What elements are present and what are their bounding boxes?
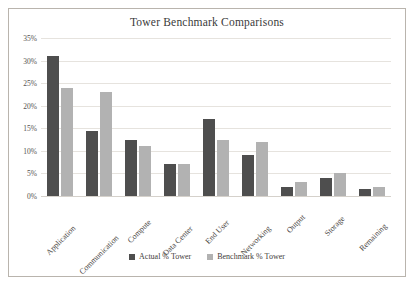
bar-group bbox=[352, 38, 391, 196]
bar-actual[interactable] bbox=[47, 56, 59, 196]
bar-actual[interactable] bbox=[242, 155, 254, 196]
bar-actual[interactable] bbox=[320, 178, 332, 196]
y-axis-tick-label: 15% bbox=[23, 124, 37, 133]
x-axis-tick-label: Output bbox=[285, 213, 307, 235]
bar-actual[interactable] bbox=[164, 164, 176, 196]
y-axis-tick-label: 25% bbox=[23, 79, 37, 88]
bar-group bbox=[274, 38, 313, 196]
bar-benchmark[interactable] bbox=[256, 142, 268, 196]
x-axis-tick-label: Compute bbox=[126, 218, 153, 245]
x-axis-tick-label: Storage bbox=[323, 214, 347, 238]
bar-benchmark[interactable] bbox=[178, 164, 190, 196]
y-axis-tick-label: 0% bbox=[27, 192, 37, 201]
y-axis-tick-label: 5% bbox=[27, 169, 37, 178]
plot-area: 35%30%25%20%15%10%5%0% bbox=[41, 38, 391, 196]
bar-benchmark[interactable] bbox=[217, 140, 229, 196]
legend-label: Benchmark % Tower bbox=[217, 252, 285, 261]
x-axis-category-labels: ApplicationCommunicationComputeData Cent… bbox=[41, 197, 391, 259]
bar-benchmark[interactable] bbox=[373, 187, 385, 196]
x-axis-tick-label: Remaining bbox=[357, 222, 388, 253]
bar-group bbox=[313, 38, 352, 196]
bar-actual[interactable] bbox=[203, 119, 215, 196]
bar-actual[interactable] bbox=[359, 189, 371, 196]
bar-benchmark[interactable] bbox=[139, 146, 151, 196]
legend-swatch-icon bbox=[207, 254, 213, 260]
chart-legend: Actual % TowerBenchmark % Tower bbox=[9, 252, 405, 261]
bars-layer bbox=[41, 38, 391, 196]
chart-frame: Tower Benchmark Comparisons 35%30%25%20%… bbox=[8, 8, 406, 277]
bar-group bbox=[158, 38, 197, 196]
bar-group bbox=[41, 38, 80, 196]
y-axis-tick-label: 10% bbox=[23, 146, 37, 155]
bar-group bbox=[80, 38, 119, 196]
bar-group bbox=[119, 38, 158, 196]
y-axis-tick-label: 30% bbox=[23, 56, 37, 65]
legend-entry[interactable]: Actual % Tower bbox=[129, 252, 191, 261]
legend-label: Actual % Tower bbox=[139, 252, 191, 261]
bar-group bbox=[197, 38, 236, 196]
legend-swatch-icon bbox=[129, 254, 135, 260]
bar-actual[interactable] bbox=[86, 131, 98, 196]
bar-benchmark[interactable] bbox=[100, 92, 112, 196]
bar-benchmark[interactable] bbox=[61, 88, 73, 196]
bar-benchmark[interactable] bbox=[295, 182, 307, 196]
bar-group bbox=[235, 38, 274, 196]
x-axis-tick-label: End User bbox=[204, 218, 232, 246]
bar-benchmark[interactable] bbox=[334, 173, 346, 196]
y-axis-tick-label: 20% bbox=[23, 101, 37, 110]
bar-actual[interactable] bbox=[281, 187, 293, 196]
y-axis-tick-label: 35% bbox=[23, 34, 37, 43]
chart-title: Tower Benchmark Comparisons bbox=[9, 16, 405, 28]
legend-entry[interactable]: Benchmark % Tower bbox=[207, 252, 285, 261]
bar-actual[interactable] bbox=[125, 140, 137, 196]
